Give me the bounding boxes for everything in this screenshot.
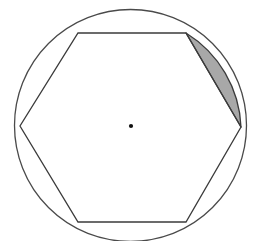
figure-background: [0, 0, 255, 241]
geometry-figure: [0, 0, 255, 241]
geometry-canvas: [0, 0, 255, 241]
center-dot: [129, 124, 133, 128]
